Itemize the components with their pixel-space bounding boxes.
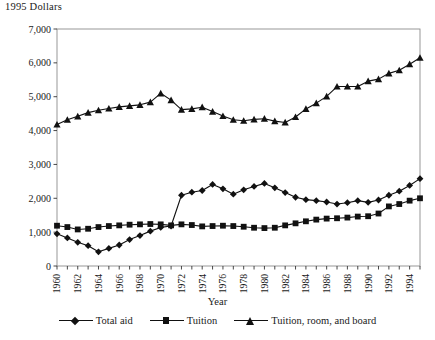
series-0-point xyxy=(261,180,268,187)
series-0-point xyxy=(282,189,289,196)
y-tick-label: 5,000 xyxy=(29,91,52,102)
series-1-point xyxy=(417,195,423,201)
series-0-point xyxy=(271,184,278,191)
series-1-point xyxy=(313,217,319,223)
series-1-point xyxy=(189,222,195,228)
x-tick-label: 1964 xyxy=(93,274,104,293)
series-1-point xyxy=(230,223,236,229)
series-1-point xyxy=(179,221,185,227)
series-0-point xyxy=(95,248,102,255)
series-2-point xyxy=(416,54,423,61)
x-tick-label: 1990 xyxy=(363,274,374,293)
series-0-point xyxy=(64,234,71,241)
series-0-point xyxy=(417,175,424,182)
series-1-point xyxy=(75,227,81,233)
series-1-point xyxy=(386,204,392,210)
series-2-point xyxy=(53,121,60,128)
series-0-point xyxy=(385,192,392,199)
series-1-point xyxy=(220,223,226,229)
series-0-point xyxy=(406,182,413,189)
series-0-point xyxy=(220,185,227,192)
series-1-point xyxy=(106,223,112,229)
series-2-point xyxy=(396,67,403,74)
series-1-point xyxy=(407,198,413,204)
series-0-point xyxy=(85,242,92,249)
series-1-point xyxy=(345,215,351,221)
series-0-point xyxy=(334,201,341,208)
series-0-point xyxy=(354,197,361,204)
series-0-point xyxy=(137,232,144,239)
series-0-point xyxy=(375,197,382,204)
legend-label-total-aid: Total aid xyxy=(96,315,133,326)
x-tick-label: 1978 xyxy=(238,274,249,293)
series-1-point xyxy=(272,225,278,231)
legend-key-diamond-icon xyxy=(59,315,93,326)
series-1-point xyxy=(293,220,299,226)
chart-plot-area: 01,0002,0003,0004,0005,0006,0007,0001960… xyxy=(0,0,435,340)
series-0-point xyxy=(344,199,351,206)
legend-item-total-aid: Total aid xyxy=(59,315,133,326)
x-tick-label: 1966 xyxy=(114,274,125,293)
series-0-point xyxy=(188,189,195,196)
y-tick-label: 7,000 xyxy=(29,24,52,35)
series-2-point xyxy=(209,108,216,115)
legend-item-tuition: Tuition xyxy=(150,315,218,326)
series-1-point xyxy=(96,224,102,230)
series-0-point xyxy=(105,245,112,252)
x-tick-label: 1980 xyxy=(259,274,270,293)
series-0-point xyxy=(396,188,403,195)
series-2-point xyxy=(74,113,81,120)
series-0-point xyxy=(230,191,237,198)
series-0-point xyxy=(303,196,310,203)
series-1-point xyxy=(324,216,330,222)
series-1-point xyxy=(376,211,382,217)
series-2-point xyxy=(167,97,174,104)
x-tick-label: 1960 xyxy=(51,274,62,293)
chart-legend: Total aid Tuition Tuition, room, and boa… xyxy=(0,315,435,326)
series-1-point xyxy=(116,222,122,228)
series-1-point xyxy=(147,221,153,227)
series-0-point xyxy=(126,236,133,243)
series-1-point xyxy=(137,221,143,227)
series-1-point xyxy=(158,221,164,227)
series-0-point xyxy=(147,228,154,235)
series-0-point xyxy=(199,187,206,194)
x-tick-label: 1972 xyxy=(176,274,187,293)
legend-label-tuition-room-board: Tuition, room, and board xyxy=(271,315,376,326)
series-1-point xyxy=(54,223,60,229)
series-0-point xyxy=(54,230,61,237)
y-tick-label: 3,000 xyxy=(29,159,52,170)
series-0-point xyxy=(365,199,372,206)
series-1-point xyxy=(85,226,91,232)
series-1-point xyxy=(303,218,309,224)
legend-key-square-icon xyxy=(150,315,184,326)
legend-item-tuition-room-board: Tuition, room, and board xyxy=(234,315,376,326)
series-0-point xyxy=(116,242,123,249)
series-2-point xyxy=(313,100,320,107)
chart-container: 1995 Dollars 01,0002,0003,0004,0005,0006… xyxy=(0,0,435,340)
series-1-point xyxy=(199,223,205,229)
series-0-point xyxy=(251,183,258,190)
x-tick-label: 1986 xyxy=(321,274,332,293)
series-1-point xyxy=(210,223,216,229)
x-tick-label: 1982 xyxy=(280,274,291,293)
series-1-point xyxy=(355,214,361,220)
x-tick-label: 1970 xyxy=(155,274,166,293)
series-1-point xyxy=(64,224,70,230)
series-1-point xyxy=(241,224,247,230)
y-tick-label: 6,000 xyxy=(29,57,52,68)
series-1-point xyxy=(127,222,133,228)
y-tick-label: 4,000 xyxy=(29,125,52,136)
x-tick-label: 1968 xyxy=(134,274,145,293)
series-1-point xyxy=(334,215,340,221)
series-line-2 xyxy=(57,58,420,125)
series-2-point xyxy=(375,76,382,83)
series-2-point xyxy=(157,90,164,97)
y-tick-label: 0 xyxy=(46,261,51,272)
y-tick-label: 1,000 xyxy=(29,227,52,238)
series-0-point xyxy=(178,192,185,199)
x-tick-label: 1976 xyxy=(217,274,228,293)
legend-label-tuition: Tuition xyxy=(187,315,218,326)
series-1-point xyxy=(365,213,371,219)
series-0-point xyxy=(292,194,299,201)
